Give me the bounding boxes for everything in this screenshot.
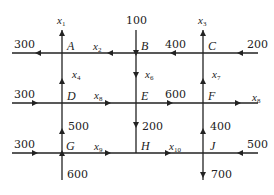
arrow-left-icon bbox=[237, 150, 243, 156]
var-x1: x1 bbox=[56, 14, 66, 28]
arrow-up-icon bbox=[200, 128, 206, 134]
flow-EH: 200 bbox=[142, 120, 163, 133]
node-D: D bbox=[66, 89, 76, 103]
var-x10: x10 bbox=[168, 140, 181, 154]
flow-GD: 500 bbox=[68, 120, 89, 133]
node-C: C bbox=[208, 39, 217, 53]
var-x8-F-out: x8 bbox=[251, 91, 261, 105]
flow-BC: 400 bbox=[165, 38, 186, 51]
node-B: B bbox=[141, 39, 149, 53]
arrow-right-icon bbox=[235, 100, 241, 106]
arrow-down-icon bbox=[133, 122, 139, 128]
arrow-left-icon bbox=[237, 50, 243, 56]
var-x2: x2 bbox=[92, 40, 102, 54]
var-x7: x7 bbox=[211, 68, 221, 82]
node-F: F bbox=[207, 89, 216, 103]
arrow-right-icon bbox=[105, 100, 111, 106]
node-G: G bbox=[66, 139, 75, 153]
var-x3: x3 bbox=[197, 14, 207, 28]
node-A: A bbox=[66, 39, 75, 53]
arrow-up-icon bbox=[59, 78, 65, 84]
arrow-up-icon bbox=[200, 30, 206, 36]
arrow-down-icon bbox=[200, 172, 206, 178]
traffic-network-diagram: A B C D E F G H J 300 100 200 400 300 60… bbox=[0, 0, 274, 195]
var-x8-DE: x8 bbox=[93, 89, 103, 103]
arrow-right-icon bbox=[105, 150, 111, 156]
node-H: H bbox=[140, 139, 151, 153]
node-E: E bbox=[140, 89, 149, 103]
flow-EF: 600 bbox=[165, 88, 186, 101]
arrow-up-icon bbox=[200, 78, 206, 84]
arrow-up-icon bbox=[59, 30, 65, 36]
flow-G-left: 300 bbox=[14, 138, 35, 151]
arrow-left-icon bbox=[35, 50, 41, 56]
flow-J-right: 500 bbox=[247, 138, 268, 151]
flow-A-left: 300 bbox=[14, 38, 35, 51]
arrow-up-icon bbox=[59, 128, 65, 134]
arrow-down-icon bbox=[133, 72, 139, 78]
var-x6: x6 bbox=[144, 68, 154, 82]
flow-C-right: 200 bbox=[247, 38, 268, 51]
flow-D-left: 300 bbox=[14, 88, 35, 101]
var-x4: x4 bbox=[71, 68, 81, 82]
node-J: J bbox=[210, 139, 216, 153]
flow-JF: 400 bbox=[210, 120, 231, 133]
flow-G-bottom: 600 bbox=[67, 168, 88, 181]
flow-B-top: 100 bbox=[126, 14, 147, 27]
flow-J-bottom: 700 bbox=[211, 168, 232, 181]
var-x9: x9 bbox=[93, 140, 103, 154]
arrow-left-icon bbox=[107, 50, 113, 56]
